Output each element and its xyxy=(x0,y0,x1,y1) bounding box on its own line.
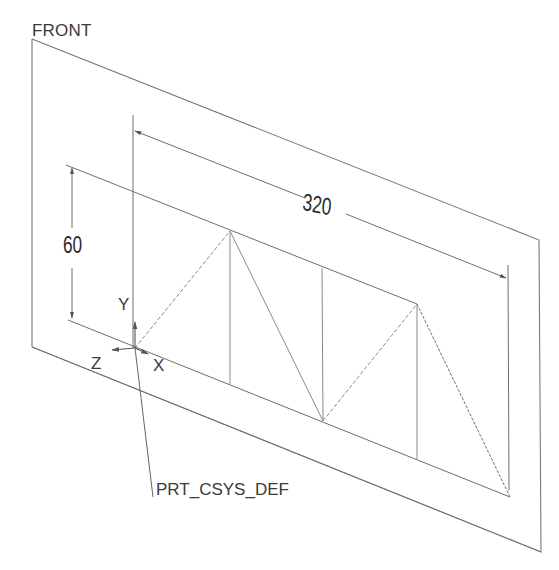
y-axis-label: Y xyxy=(118,296,129,313)
dimension-60-value[interactable]: 60 xyxy=(63,233,82,257)
csys-leader-line xyxy=(135,348,153,497)
front-datum-plane[interactable] xyxy=(32,39,541,552)
lower-reference-line xyxy=(32,347,541,552)
x-axis-label: X xyxy=(153,357,164,374)
truss-chords[interactable] xyxy=(32,165,510,497)
z-axis-label: Z xyxy=(91,355,101,372)
front-plane-label[interactable]: FRONT xyxy=(32,22,92,39)
csys-label[interactable]: PRT_CSYS_DEF xyxy=(156,481,289,498)
truss-web[interactable] xyxy=(135,231,417,459)
dimension-320-extension-lines xyxy=(133,115,509,490)
dimension-320-value[interactable]: 320 xyxy=(302,190,333,219)
